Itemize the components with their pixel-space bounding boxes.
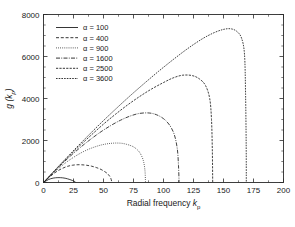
series-line-3600 (44, 29, 247, 183)
series-line-400 (44, 165, 112, 183)
x-tick-label: 150 (217, 186, 231, 195)
x-tick-label: 100 (157, 186, 171, 195)
series-line-900 (44, 143, 146, 182)
x-tick-label: 0 (41, 186, 46, 195)
legend-label-1600: α = 1600 (83, 54, 113, 63)
x-tick-label: 50 (99, 186, 108, 195)
x-tick-label: 75 (129, 186, 138, 195)
y-axis-title: g (kp) (4, 88, 16, 109)
legend-label-100: α = 100 (83, 23, 108, 32)
plot-frame (44, 15, 284, 183)
line-chart: 025507510012515017520002000400060008000R… (0, 0, 295, 227)
legend-label-400: α = 400 (83, 34, 108, 43)
x-tick-label: 175 (247, 186, 261, 195)
legend: α = 100α = 400α = 900α = 1600α = 2500α =… (56, 23, 113, 83)
y-tick-label: 8000 (22, 11, 40, 20)
series-line-1600 (44, 113, 180, 183)
x-tick-label: 25 (69, 186, 78, 195)
y-tick-label: 2000 (22, 137, 40, 146)
x-tick-label: 125 (187, 186, 201, 195)
y-tick-label: 6000 (22, 53, 40, 62)
y-tick-label: 0 (35, 179, 40, 188)
figure-container: 025507510012515017520002000400060008000R… (0, 0, 295, 227)
legend-label-900: α = 900 (83, 44, 108, 53)
y-axis-title-group: g (kp) (4, 88, 16, 109)
legend-label-2500: α = 2500 (83, 64, 113, 73)
x-tick-label: 200 (277, 186, 291, 195)
legend-label-3600: α = 3600 (83, 74, 113, 83)
x-axis-title: Radial frequency kp (127, 198, 201, 210)
y-tick-label: 4000 (22, 95, 40, 104)
series-group (44, 29, 247, 183)
